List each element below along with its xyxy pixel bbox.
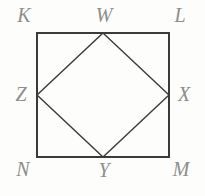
vertex-label-k: K (12, 5, 36, 25)
vertex-label-y: Y (92, 160, 116, 180)
vertex-label-l: L (168, 5, 192, 25)
geometry-figure: K L N M W Z X Y (0, 0, 205, 196)
inner-square-wxyz (37, 33, 169, 157)
vertex-label-z: Z (9, 84, 33, 104)
vertex-label-n: N (10, 159, 36, 179)
outer-square-klmn (37, 33, 169, 157)
vertex-label-w: W (91, 5, 117, 25)
vertex-label-x: X (172, 84, 196, 104)
vertex-label-m: M (168, 159, 194, 179)
